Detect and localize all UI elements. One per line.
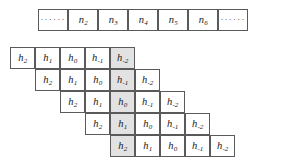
filter-row-2-cell: h-2 — [135, 69, 160, 91]
filter-row-3-cell: h0 — [110, 91, 135, 113]
cell-symbol: h1 — [43, 53, 52, 64]
cell-symbol: h-1 — [117, 75, 128, 86]
cell-symbol: h0 — [118, 97, 127, 108]
cell-subscript: -1 — [198, 145, 204, 153]
cell-subscript: -2 — [198, 123, 204, 131]
cell-subscript: 2 — [124, 145, 128, 153]
cell-symbol: h-2 — [217, 141, 228, 152]
cell-symbol: h0 — [168, 141, 177, 152]
cell-subscript: 2 — [49, 79, 53, 87]
input-row-cell: n5 — [158, 9, 188, 31]
filter-row-3-cell: h-2 — [160, 91, 185, 113]
cell-symbol: h-2 — [117, 53, 128, 64]
filter-row-2-cell: h-1 — [110, 69, 135, 91]
cell-symbol: h-1 — [92, 53, 103, 64]
cell-subscript: -1 — [148, 101, 154, 109]
filter-row-1-cell: h-1 — [85, 47, 110, 69]
cell-subscript: 2 — [24, 57, 28, 65]
cell-subscript: 2 — [99, 123, 103, 131]
filter-row-5-cell: h1 — [135, 135, 160, 157]
filter-row-5-cell: h0 — [160, 135, 185, 157]
cell-symbol: h-1 — [192, 141, 203, 152]
cell-symbol: n4 — [139, 15, 148, 26]
cell-symbol: h0 — [68, 53, 77, 64]
cell-symbol: n2 — [79, 15, 88, 26]
cell-subscript: 0 — [99, 79, 103, 87]
cell-symbol: h2 — [68, 97, 77, 108]
cell-subscript: -1 — [98, 57, 104, 65]
cell-symbol: n3 — [109, 15, 118, 26]
convolution-staircase-diagram: ······n2n3n4n5n6······h2h1h0h-1h-2h2h1h0… — [0, 0, 291, 163]
input-row-cell: n6 — [188, 9, 218, 31]
cell-subscript: -2 — [223, 145, 229, 153]
cell-symbol: n6 — [199, 15, 208, 26]
filter-row-5-cell: h-1 — [185, 135, 210, 157]
input-row-cell: ······ — [218, 9, 248, 31]
filter-row-5-cell: h2 — [110, 135, 135, 157]
filter-row-4-cell: h0 — [135, 113, 160, 135]
ellipsis-glyph: ······ — [40, 15, 65, 24]
filter-row-2-cell: h2 — [35, 69, 60, 91]
cell-symbol: h-2 — [142, 75, 153, 86]
input-row-cell: n3 — [98, 9, 128, 31]
cell-symbol: h1 — [93, 97, 102, 108]
filter-row-2-cell: h1 — [60, 69, 85, 91]
cell-subscript: 5 — [174, 19, 178, 27]
cell-subscript: 1 — [99, 101, 103, 109]
cell-subscript: -2 — [123, 57, 129, 65]
filter-row-1-cell: h2 — [10, 47, 35, 69]
cell-subscript: -1 — [123, 79, 129, 87]
cell-subscript: 3 — [114, 19, 118, 27]
cell-subscript: 0 — [74, 57, 78, 65]
cell-subscript: 1 — [49, 57, 53, 65]
cell-symbol: h-1 — [142, 97, 153, 108]
cell-symbol: h-2 — [192, 119, 203, 130]
filter-row-4-cell: h-2 — [185, 113, 210, 135]
filter-row-4-cell: h-1 — [160, 113, 185, 135]
cell-subscript: 1 — [74, 79, 78, 87]
cell-symbol: h1 — [68, 75, 77, 86]
cell-subscript: 1 — [149, 145, 153, 153]
cell-subscript: 0 — [124, 101, 128, 109]
cell-subscript: -1 — [173, 123, 179, 131]
cell-subscript: 0 — [174, 145, 178, 153]
ellipsis-glyph: ······ — [220, 15, 245, 24]
filter-row-3-cell: h1 — [85, 91, 110, 113]
filter-row-1-cell: h-2 — [110, 47, 135, 69]
filter-row-5-cell: h-2 — [210, 135, 235, 157]
cell-symbol: h2 — [18, 53, 27, 64]
cell-symbol: h2 — [93, 119, 102, 130]
cell-subscript: 6 — [204, 19, 208, 27]
filter-row-4-cell: h2 — [85, 113, 110, 135]
cell-symbol: n5 — [169, 15, 178, 26]
input-row-cell: n4 — [128, 9, 158, 31]
cell-subscript: 0 — [149, 123, 153, 131]
cell-symbol: h0 — [143, 119, 152, 130]
cell-symbol: h2 — [43, 75, 52, 86]
cell-subscript: 2 — [74, 101, 78, 109]
cell-subscript: -2 — [173, 101, 179, 109]
cell-symbol: h1 — [143, 141, 152, 152]
cell-subscript: 2 — [84, 19, 88, 27]
filter-row-2-cell: h0 — [85, 69, 110, 91]
cell-subscript: -2 — [148, 79, 154, 87]
input-row-cell: n2 — [68, 9, 98, 31]
cell-symbol: h1 — [118, 119, 127, 130]
filter-row-4-cell: h1 — [110, 113, 135, 135]
cell-subscript: 1 — [124, 123, 128, 131]
cell-subscript: 4 — [144, 19, 148, 27]
filter-row-3-cell: h2 — [60, 91, 85, 113]
cell-symbol: h2 — [118, 141, 127, 152]
filter-row-3-cell: h-1 — [135, 91, 160, 113]
input-row-cell: ······ — [38, 9, 68, 31]
cell-symbol: h-2 — [167, 97, 178, 108]
cell-symbol: h0 — [93, 75, 102, 86]
cell-symbol: h-1 — [167, 119, 178, 130]
filter-row-1-cell: h0 — [60, 47, 85, 69]
filter-row-1-cell: h1 — [35, 47, 60, 69]
